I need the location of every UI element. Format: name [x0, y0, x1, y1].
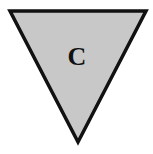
- triangle-label: C: [60, 42, 94, 72]
- triangle-diagram: C: [0, 0, 153, 154]
- inverted-triangle-shape: [0, 0, 153, 154]
